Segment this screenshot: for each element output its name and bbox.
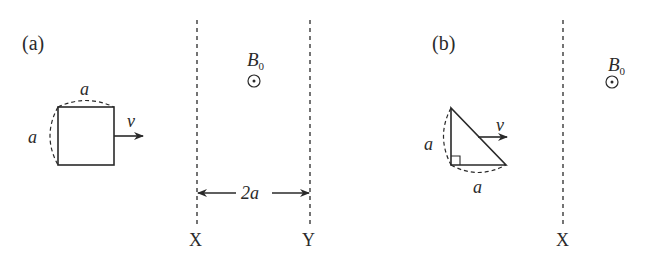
field-symbol: B xyxy=(608,54,620,75)
bottom-side-label: a xyxy=(473,177,482,197)
top-side-brace xyxy=(58,101,114,108)
left-side-brace xyxy=(444,108,452,165)
figure: (a) a a v X Y 2a B0 (b) xyxy=(0,0,662,271)
out-of-page-icon xyxy=(248,75,260,87)
bottom-side-brace xyxy=(451,165,506,173)
field-label: B0 xyxy=(608,54,626,77)
square-loop xyxy=(58,107,114,165)
out-of-page-icon xyxy=(606,76,618,88)
width-label-text: 2a xyxy=(241,183,259,203)
left-side-label: a xyxy=(28,127,37,147)
boundary-x-label: X xyxy=(189,230,202,250)
right-angle-marker xyxy=(451,156,460,165)
top-side-label: a xyxy=(80,79,89,99)
field-subscript: 0 xyxy=(259,60,265,72)
field-symbol: B xyxy=(247,49,259,70)
panel-b-label: (b) xyxy=(432,32,455,55)
panel-b: (b) a a v X B0 xyxy=(424,20,626,250)
boundary-x-label: X xyxy=(556,230,569,250)
boundary-y-label: Y xyxy=(302,230,315,250)
velocity-label: v xyxy=(496,115,504,135)
left-side-brace xyxy=(50,107,58,165)
panel-a: (a) a a v X Y 2a B0 xyxy=(22,20,315,250)
field-subscript: 0 xyxy=(620,65,626,77)
field-label: B0 xyxy=(247,49,265,72)
velocity-label: v xyxy=(127,111,135,131)
panel-a-label: (a) xyxy=(22,32,44,55)
left-side-label: a xyxy=(424,134,433,154)
width-label: 2a xyxy=(241,183,259,203)
